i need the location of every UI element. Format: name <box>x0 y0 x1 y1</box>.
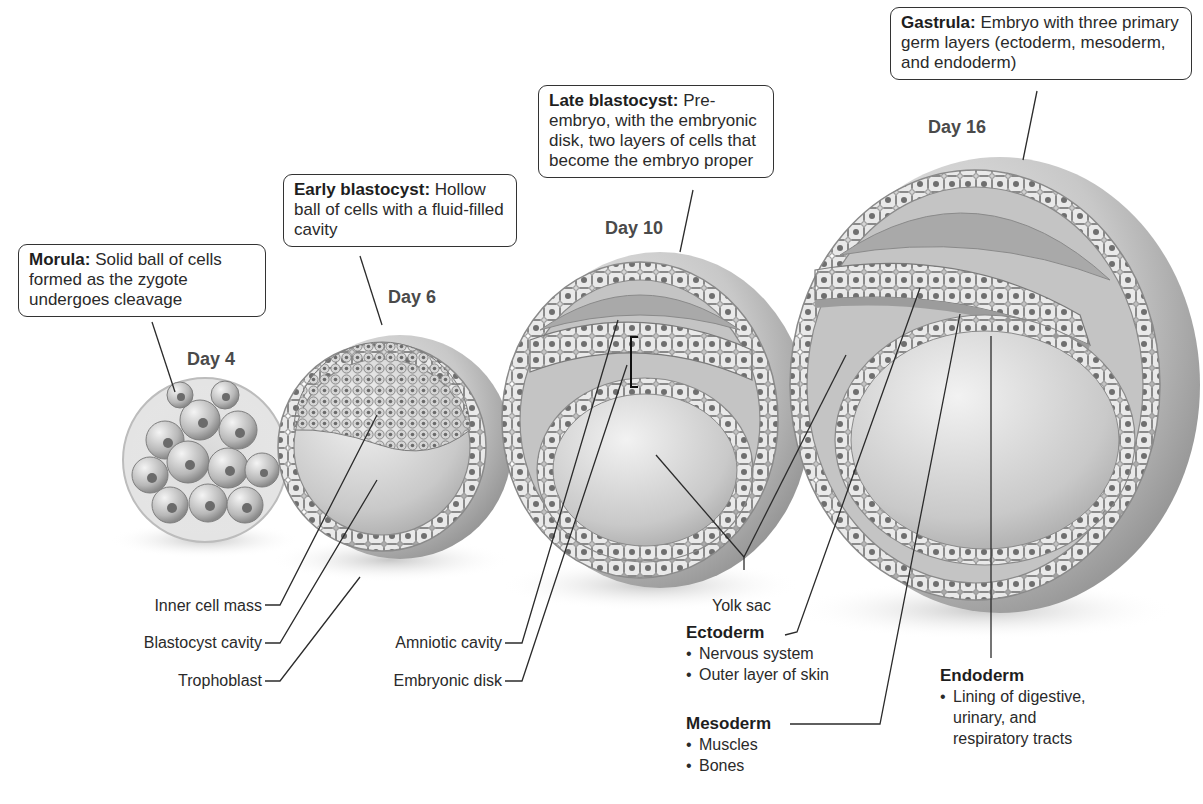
ectoderm-item: Nervous system <box>686 643 829 664</box>
endoderm-item: Lining of digestive, <box>940 686 1086 707</box>
callout-late-blastocyst: Late blastocyst: Pre-embryo, with the em… <box>538 85 774 178</box>
germ-layer-endoderm: Endoderm Lining of digestive, urinary, a… <box>940 665 1086 749</box>
callout-term: Morula: <box>29 250 90 269</box>
label-amniotic-cavity: Amniotic cavity <box>395 633 502 653</box>
early-blastocyst <box>278 335 512 559</box>
germ-layer-ectoderm: Ectoderm Nervous system Outer layer of s… <box>686 622 829 685</box>
day-label-6: Day 6 <box>388 287 436 308</box>
day-label-4: Day 4 <box>187 349 235 370</box>
endoderm-title: Endoderm <box>940 665 1086 686</box>
callout-morula: Morula: Solid ball of cells formed as th… <box>18 244 266 317</box>
morula <box>123 378 287 542</box>
label-yolk-sac: Yolk sac <box>712 596 771 616</box>
label-embryonic-disk: Embryonic disk <box>394 671 502 691</box>
label-trophoblast: Trophoblast <box>178 671 262 691</box>
callout-term: Early blastocyst: <box>294 180 430 199</box>
day-label-16: Day 16 <box>928 117 986 138</box>
ectoderm-item: Outer layer of skin <box>686 664 829 685</box>
ectoderm-title: Ectoderm <box>686 622 829 643</box>
late-blastocyst <box>502 252 810 588</box>
day-label-10: Day 10 <box>605 218 663 239</box>
endoderm-item-cont: respiratory tracts <box>940 728 1086 749</box>
callout-term: Gastrula: <box>901 13 976 32</box>
mesoderm-title: Mesoderm <box>686 713 771 734</box>
endoderm-item-cont: urinary, and <box>940 707 1086 728</box>
callout-early-blastocyst: Early blastocyst: Hollow ball of cells w… <box>283 174 517 247</box>
label-blastocyst-cavity: Blastocyst cavity <box>144 633 262 653</box>
germ-layer-mesoderm: Mesoderm Muscles Bones <box>686 713 771 776</box>
gastrula <box>790 157 1200 613</box>
mesoderm-item: Bones <box>686 755 771 776</box>
label-inner-cell-mass: Inner cell mass <box>154 596 262 616</box>
callout-gastrula: Gastrula: Embryo with three primary germ… <box>890 7 1192 80</box>
callout-term: Late blastocyst: <box>549 91 678 110</box>
mesoderm-item: Muscles <box>686 734 771 755</box>
